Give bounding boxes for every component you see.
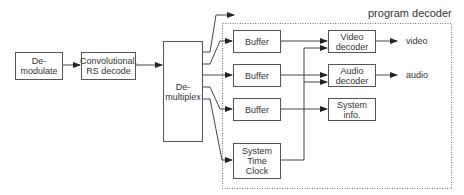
audio-output-label: audio <box>406 70 428 80</box>
buffer-block-1: Buffer <box>233 30 281 53</box>
system-info-block: System info. <box>328 98 376 121</box>
fec-decode-block: Convolutional, RS decode <box>81 52 136 80</box>
connector-layer <box>0 0 464 195</box>
video-decoder-block: Video decoder <box>328 30 376 53</box>
video-output-label: video <box>406 36 428 46</box>
buffer-block-3: Buffer <box>233 98 281 121</box>
program-decoder-title: program decoder <box>368 7 452 19</box>
demultiplex-block: De- multiplex <box>163 41 203 142</box>
audio-decoder-block: Audio decoder <box>328 64 376 87</box>
demodulate-block: De- modulate <box>15 52 63 80</box>
buffer-block-2: Buffer <box>233 64 281 87</box>
system-time-clock-block: System Time Clock <box>233 143 281 179</box>
